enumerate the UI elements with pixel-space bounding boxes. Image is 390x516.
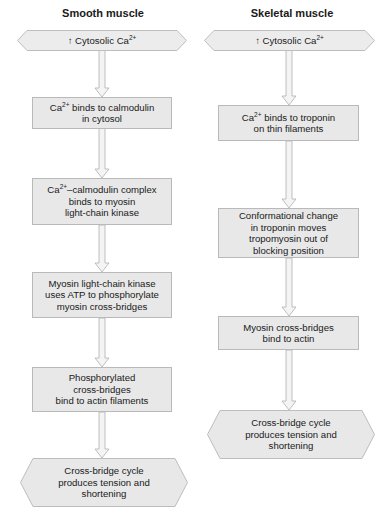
skeletal-step-3: Myosin cross-bridges bind to actin [218,316,359,350]
smooth-step-1: Ca2+ binds to calmodulin in cytosol [32,97,172,129]
skeletal-step-2: Conformational change in troponin moves … [218,208,359,258]
skeletal-start-node: ↑ Cytosolic Ca2+ [204,30,375,51]
smooth-step-4: Phosphorylated cross-bridges bind to act… [32,367,172,412]
smooth-step-2: Ca2+–calmodulin complex binds to myosin … [32,178,172,225]
skeletal-end-node: Cross-bridge cycle produces tension and … [207,410,375,459]
smooth-start-label: ↑ Cytosolic Ca2+ [68,35,137,47]
smooth-step-3: Myosin light-chain kinase uses ATP to ph… [32,272,172,318]
smooth-start-node: ↑ Cytosolic Ca2+ [17,30,187,51]
skeletal-start-label: ↑ Cytosolic Ca2+ [255,35,324,47]
smooth-end-node: Cross-bridge cycle produces tension and … [20,458,188,507]
skeletal-step-1: Ca2+ binds to troponin on thin filaments [218,105,359,141]
